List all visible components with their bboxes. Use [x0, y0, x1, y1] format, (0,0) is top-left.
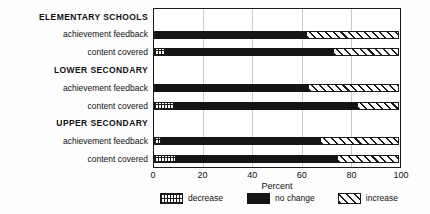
- bar-segment-increase: [357, 102, 399, 110]
- legend: decreaseno changeincrease: [160, 193, 398, 204]
- legend-swatch-solid: [247, 193, 270, 204]
- bar-label: achievement feedback: [0, 79, 157, 97]
- group-label: UPPER SECONDARY: [0, 115, 152, 133]
- bar-row: [154, 84, 400, 92]
- x-tick-label-40: 40: [247, 171, 257, 180]
- bar-segment-no-change: [166, 48, 333, 56]
- legend-swatch-diagonal-hatch: [338, 193, 361, 204]
- bar-segment-no-change: [174, 102, 359, 110]
- group-label: ELEMENTARY SCHOOLS: [0, 8, 152, 26]
- bar-segment-decrease: [154, 137, 161, 145]
- bar-label: achievement feedback: [0, 132, 157, 150]
- bar-label: achievement feedback: [0, 26, 157, 44]
- group-label: LOWER SECONDARY: [0, 61, 152, 79]
- bar-segment-increase: [308, 84, 399, 92]
- x-tick-label-100: 100: [393, 171, 408, 180]
- bar-segment-increase: [306, 31, 399, 39]
- bar-label: content covered: [0, 44, 157, 62]
- bar-row: [154, 155, 400, 163]
- bar-segment-decrease: [154, 48, 166, 56]
- x-axis-title: Percent: [261, 182, 292, 191]
- legend-label: decrease: [188, 194, 223, 203]
- legend-label: no change: [275, 194, 315, 203]
- bar-row: [154, 102, 400, 110]
- legend-item-increase: increase: [339, 193, 398, 204]
- bar-segment-increase: [320, 137, 399, 145]
- bar-row: [154, 48, 400, 56]
- bar-segment-no-change: [161, 137, 321, 145]
- bar-segment-no-change: [156, 84, 309, 92]
- bar-label: content covered: [0, 150, 157, 168]
- stacked-bar-chart-figure: ELEMENTARY SCHOOLSachievement feedbackco…: [0, 0, 430, 214]
- legend-swatch-crosshatch-grid: [160, 193, 183, 204]
- x-tick-label-0: 0: [150, 171, 155, 180]
- bar-segment-no-change: [156, 31, 306, 39]
- bar-segment-increase: [337, 155, 399, 163]
- legend-item-no-change: no change: [247, 193, 315, 204]
- legend-item-decrease: decrease: [160, 193, 223, 204]
- bar-segment-decrease: [154, 102, 174, 110]
- bar-segment-no-change: [176, 155, 338, 163]
- bar-segment-increase: [333, 48, 399, 56]
- bar-row: [154, 137, 400, 145]
- bar-segment-decrease: [154, 155, 176, 163]
- bar-row: [154, 31, 400, 39]
- plot-area: [153, 8, 401, 168]
- x-tick-label-20: 20: [198, 171, 208, 180]
- legend-label: increase: [366, 194, 398, 203]
- bar-label: content covered: [0, 97, 157, 115]
- x-tick-label-80: 80: [346, 171, 356, 180]
- x-tick-label-60: 60: [297, 171, 307, 180]
